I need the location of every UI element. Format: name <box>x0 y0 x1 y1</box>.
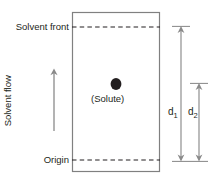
d2-label-subscript: 2 <box>194 111 198 120</box>
solvent-front-label: Solvent front <box>16 22 69 32</box>
solvent-flow-label: Solvent flow <box>3 75 13 126</box>
origin-label: Origin <box>44 155 69 165</box>
d1-label: d1 <box>168 107 178 120</box>
d1-dimension-arrow <box>172 26 190 162</box>
chromatography-diagram: Solvent front Origin Solvent flow (Solut… <box>0 0 218 179</box>
chromatography-plate <box>73 13 160 172</box>
d1-label-subscript: 1 <box>174 111 178 120</box>
solute-label: (Solute) <box>91 94 124 104</box>
solute-spot <box>111 78 122 90</box>
d2-label: d2 <box>188 107 198 120</box>
d2-dimension-arrow <box>190 83 208 162</box>
solvent-flow-arrow <box>50 69 57 132</box>
